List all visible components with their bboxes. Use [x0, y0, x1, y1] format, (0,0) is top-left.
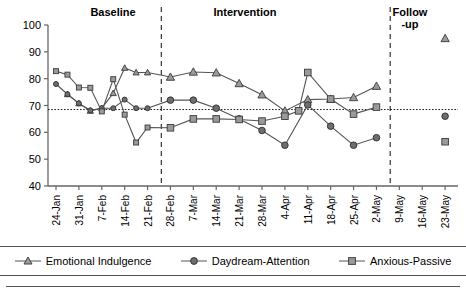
series-line-triangle: [67, 68, 376, 111]
line-chart: 40506070809010024-Jan31-Jan7-Feb14-Feb21…: [0, 0, 466, 246]
data-point-triangle: [122, 65, 128, 71]
data-point-circle: [122, 97, 127, 102]
x-tick-label: 14-Mar: [211, 194, 222, 226]
data-point-square: [88, 85, 93, 90]
data-point-square: [327, 96, 334, 103]
data-point-triangle: [189, 68, 197, 75]
data-point-circle: [111, 106, 116, 111]
x-tick-label: 24-Jan: [51, 195, 62, 226]
data-point-circle: [282, 142, 289, 149]
data-point-circle: [259, 127, 266, 134]
data-point-triangle: [349, 93, 357, 100]
legend-item-anxious-passive: Anxious-Passive: [339, 255, 451, 267]
data-point-circle: [350, 142, 357, 149]
data-point-circle: [213, 105, 220, 112]
legend-item-daydream-attention: Daydream-Attention: [181, 255, 310, 267]
data-point-square: [76, 85, 81, 90]
x-tick-label: 28-Mar: [257, 194, 268, 226]
x-tick-label: 2-May: [371, 195, 382, 223]
data-point-circle: [88, 108, 93, 113]
data-point-square: [236, 116, 243, 123]
data-point-triangle: [110, 90, 116, 96]
data-point-square: [134, 140, 139, 145]
data-point-square: [99, 109, 104, 114]
data-point-square: [282, 113, 289, 120]
data-point-square: [54, 69, 59, 74]
data-point-circle: [134, 106, 139, 111]
y-tick-label: 60: [29, 126, 41, 138]
square-marker-icon: [339, 255, 365, 267]
x-tick-label: 25-Apr: [349, 194, 360, 225]
data-point-triangle: [372, 82, 380, 89]
x-tick-label: 16-May: [417, 195, 428, 228]
data-point-square: [295, 108, 302, 115]
data-point-square: [442, 138, 449, 145]
data-point-circle: [442, 113, 449, 120]
y-tick-label: 90: [29, 46, 41, 58]
data-point-circle: [304, 102, 311, 109]
data-point-circle: [145, 106, 150, 111]
data-point-square: [259, 118, 266, 125]
y-tick-label: 100: [23, 19, 41, 31]
circle-marker-icon: [181, 255, 207, 267]
y-tick-label: 70: [29, 100, 41, 112]
y-tick-label: 40: [29, 180, 41, 192]
legend-label: Daydream-Attention: [212, 255, 310, 267]
data-point-circle: [54, 82, 59, 87]
data-point-square: [190, 116, 197, 123]
x-tick-label: 21-Mar: [234, 194, 245, 226]
x-tick-label: 28-Feb: [165, 195, 176, 227]
y-tick-label: 50: [29, 153, 41, 165]
x-tick-label: 31-Jan: [74, 195, 85, 226]
legend-item-emotional-indulgence: Emotional Indulgence: [15, 255, 152, 267]
data-point-square: [167, 124, 174, 131]
legend-label: Anxious-Passive: [370, 255, 451, 267]
x-tick-label: 14-Feb: [120, 195, 131, 227]
chart-page: Baseline Intervention Follow -up 4050607…: [0, 0, 466, 294]
x-tick-label: 18-Apr: [326, 194, 337, 225]
data-point-triangle: [441, 34, 449, 41]
x-tick-label: 11-Apr: [303, 194, 314, 224]
x-tick-label: 7-Mar: [188, 194, 199, 221]
x-tick-label: 9-May: [394, 195, 405, 223]
data-point-square: [65, 72, 70, 77]
data-point-circle: [373, 134, 380, 141]
data-point-square: [350, 111, 357, 118]
triangle-marker-icon: [15, 255, 41, 267]
chart-legend: Emotional Indulgence Daydream-Attention …: [0, 246, 466, 276]
x-tick-label: 7-Feb: [97, 195, 108, 222]
data-point-square: [111, 77, 116, 82]
series-line-circle: [56, 84, 376, 145]
data-point-square: [304, 69, 311, 76]
x-tick-label: 21-Feb: [143, 195, 154, 227]
legend-bottom-rule: [6, 286, 460, 287]
data-point-square: [122, 112, 127, 117]
data-point-circle: [65, 92, 70, 97]
data-point-square: [373, 104, 380, 111]
legend-label: Emotional Indulgence: [46, 255, 152, 267]
data-point-circle: [76, 101, 81, 106]
y-tick-label: 80: [29, 73, 41, 85]
data-point-circle: [327, 123, 334, 130]
data-point-square: [213, 116, 220, 123]
data-point-triangle: [258, 91, 266, 98]
data-point-circle: [167, 97, 174, 104]
x-tick-label: 4-Apr: [280, 194, 291, 219]
data-point-triangle: [235, 79, 243, 86]
x-tick-label: 23-May: [440, 195, 451, 228]
data-point-circle: [190, 97, 197, 104]
data-point-square: [145, 125, 150, 130]
